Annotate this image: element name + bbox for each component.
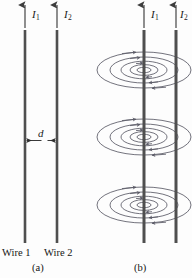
- field-arrow-2-a: [122, 119, 136, 120]
- separation-label: d: [38, 128, 44, 139]
- panel-b-graphics: [92, 0, 192, 278]
- field-arrow-2-f: [146, 144, 152, 145]
- field-arrow-1-a: [122, 52, 136, 53]
- wire2-name-label: Wire 2: [44, 248, 72, 259]
- field-arrow-2-e: [136, 130, 143, 131]
- wire2-current-label-b: I2: [180, 9, 188, 21]
- field-arrow-3-d: [149, 217, 158, 218]
- wire1-current-label-a: I1: [32, 9, 40, 21]
- field-arrow-2-d: [149, 149, 158, 150]
- panel-a-caption: (a): [32, 263, 44, 274]
- field-arrow-1-e: [136, 63, 143, 64]
- panel-a: I1 I2 d Wire 1 Wire 2 (a): [0, 0, 96, 278]
- panel-b-caption: (b): [134, 263, 146, 274]
- panel-b: I1 I2 (b): [92, 0, 192, 278]
- field-arrow-1-f: [146, 77, 152, 78]
- panel-a-graphics: [0, 0, 96, 278]
- field-arrow-3-a: [122, 187, 136, 188]
- wire1-name-label: Wire 1: [2, 248, 30, 259]
- wire1-current-label-b: I1: [151, 9, 159, 21]
- wire2-current-label-a: I2: [64, 9, 72, 21]
- field-arrow-3-e: [136, 198, 143, 199]
- field-arrow-3-f: [146, 212, 152, 213]
- field-arrow-1-d: [149, 82, 158, 83]
- physics-figure: I1 I2 d Wire 1 Wire 2 (a): [0, 0, 192, 278]
